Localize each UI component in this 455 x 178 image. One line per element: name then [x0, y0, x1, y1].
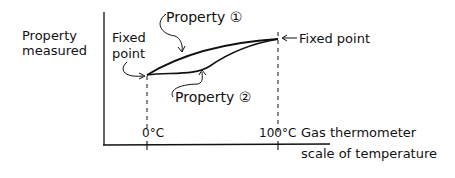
x-axis-label-line2: scale of temperature [301, 146, 437, 161]
thermometer-diagram: Property measured Fixed point Property ①… [0, 0, 455, 178]
y-axis-label-line2: measured [22, 43, 87, 58]
right-fixed-point-label: Fixed point [299, 31, 370, 46]
left-fixed-point-arrow [123, 62, 143, 76]
x-axis [103, 144, 330, 145]
property-1-curve [147, 39, 278, 75]
x-axis-label-line1: Gas thermometer [301, 125, 417, 140]
y-axis-label-line1: Property [22, 28, 77, 43]
property-2-curve [147, 39, 278, 75]
tick-label-100c: 100°C [259, 126, 296, 140]
property-2-label: Property ② [175, 89, 251, 105]
property-1-label: Property ① [166, 9, 242, 25]
left-fixed-point-label-line2: point [112, 46, 145, 61]
left-fixed-point-label-line1: Fixed [112, 30, 146, 45]
arrowhead-icon [178, 46, 185, 52]
tick-label-0c: 0°C [142, 126, 164, 140]
